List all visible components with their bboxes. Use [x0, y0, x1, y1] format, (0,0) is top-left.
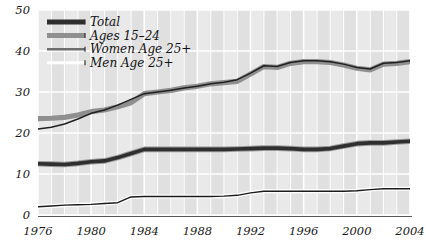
- legend-label: Men Age 25+: [89, 56, 174, 70]
- year-band: [385, 10, 396, 215]
- x-tick-label: 2000: [341, 224, 371, 238]
- year-band: [305, 10, 316, 215]
- year-band: [358, 10, 369, 215]
- x-tick-label: 1988: [183, 224, 212, 238]
- year-band: [52, 10, 63, 215]
- year-band: [199, 10, 210, 215]
- x-tick-label: 1980: [77, 224, 106, 238]
- year-band: [39, 10, 50, 215]
- legend-label: Women Age 25+: [90, 42, 191, 56]
- year-band: [225, 10, 236, 215]
- year-band: [345, 10, 356, 215]
- year-band: [159, 10, 170, 215]
- line-chart: 01020304050 1976198019841988199219962000…: [0, 0, 426, 247]
- year-band: [238, 10, 249, 215]
- year-band: [371, 10, 382, 215]
- y-tick-label: 30: [15, 85, 30, 99]
- year-band: [331, 10, 342, 215]
- y-tick-label: 0: [23, 208, 30, 222]
- year-band: [398, 10, 409, 215]
- x-tick-label: 1976: [23, 224, 52, 238]
- y-tick-label: 40: [14, 44, 30, 58]
- year-band: [172, 10, 183, 215]
- legend-label: Total: [90, 15, 120, 29]
- x-tick-label: 1996: [289, 224, 318, 238]
- y-tick-label: 20: [14, 126, 30, 140]
- y-tick-label: 50: [15, 3, 30, 17]
- year-band: [318, 10, 329, 215]
- y-tick-label: 10: [15, 167, 30, 181]
- year-band: [185, 10, 196, 215]
- year-band: [278, 10, 289, 215]
- year-band: [265, 10, 276, 215]
- legend-label: Ages 15–24: [89, 29, 160, 43]
- year-band: [66, 10, 77, 215]
- x-tick-label: 1984: [130, 224, 159, 238]
- year-band: [292, 10, 303, 215]
- year-band: [252, 10, 263, 215]
- year-band: [212, 10, 223, 215]
- x-tick-label: 1992: [236, 224, 265, 238]
- chart-container: 01020304050 1976198019841988199219962000…: [0, 0, 426, 247]
- x-tick-label: 2004: [394, 224, 424, 238]
